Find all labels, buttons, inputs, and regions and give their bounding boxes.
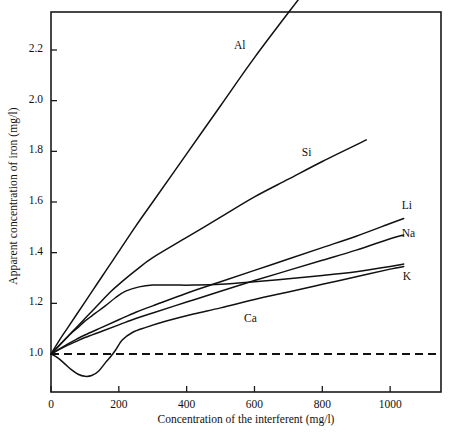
chart-canvas — [0, 0, 449, 436]
x-tick-label: 200 — [99, 398, 139, 410]
series-label-si: Si — [302, 146, 312, 158]
series-label-ca: Ca — [244, 312, 257, 324]
series-label-li: Li — [402, 199, 412, 211]
x-tick-label: 600 — [234, 398, 274, 410]
y-tick-label: 2.2 — [9, 42, 43, 54]
chart-figure: Apparent concentration of iron (mg/l) Co… — [0, 0, 449, 436]
series-label-k: K — [403, 270, 411, 282]
series-line-li — [51, 218, 404, 354]
series-label-na: Na — [402, 227, 415, 239]
axis-ticks — [51, 50, 390, 392]
series-line-si — [51, 140, 366, 354]
y-tick-label: 1.8 — [9, 143, 43, 155]
series-line-na — [51, 235, 404, 354]
y-tick-label: 1.2 — [9, 295, 43, 307]
y-tick-label: 1.6 — [9, 194, 43, 206]
y-tick-label: 1.0 — [9, 346, 43, 358]
data-series-lines — [51, 0, 404, 376]
y-tick-label: 2.0 — [9, 93, 43, 105]
x-tick-label: 0 — [31, 398, 71, 410]
y-tick-label: 1.4 — [9, 245, 43, 257]
series-line-al — [51, 0, 299, 354]
x-tick-label: 1000 — [370, 398, 410, 410]
series-label-al: Al — [234, 39, 246, 51]
x-tick-label: 400 — [167, 398, 207, 410]
x-tick-label: 800 — [302, 398, 342, 410]
x-axis-label: Concentration of the interferent (mg/l) — [51, 413, 441, 425]
series-line-ca — [51, 267, 404, 377]
